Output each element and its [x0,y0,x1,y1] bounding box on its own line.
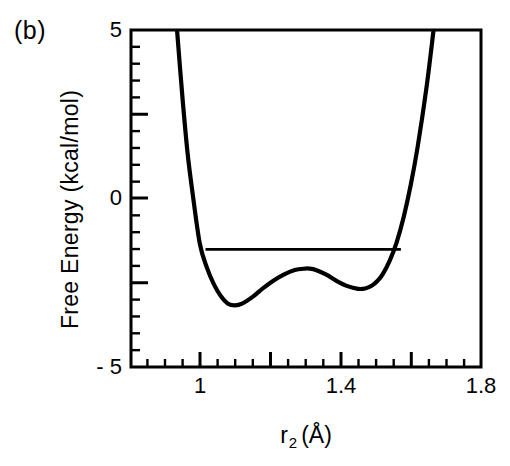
plot-area [0,0,510,466]
free-energy-figure: (b) Free Energy (kcal/mol) 5 0 - 5 1 1.4… [0,0,510,466]
y-major-ticks [131,114,148,283]
free-energy-curve [177,30,434,305]
